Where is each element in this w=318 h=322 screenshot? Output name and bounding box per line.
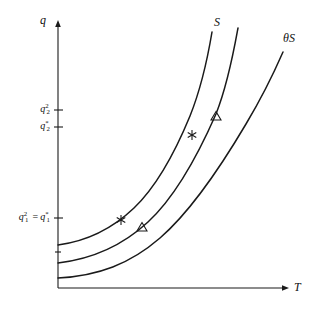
y-tick-label-q2-star: q*2 [0, 121, 52, 131]
plot-svg [0, 0, 318, 322]
q2st-sub: 2 [47, 125, 50, 132]
q1sq-sub: 1 [25, 216, 28, 223]
star-marker-upper [188, 130, 197, 140]
equals-sign: = [31, 211, 41, 222]
x-axis-arrowhead [282, 285, 289, 291]
curve-theta-s [58, 52, 283, 278]
q1sq-base: q [19, 211, 24, 222]
y-axis-label: q [40, 14, 46, 26]
q1st-sub: 1 [47, 216, 50, 223]
q2sq-sub: 2 [47, 108, 50, 115]
x-axis [58, 285, 289, 291]
curve-s [58, 28, 238, 263]
y-axis-arrowhead [55, 20, 61, 27]
figure-canvas: q T S θS q22 q*2 q21=q*1 [0, 0, 318, 322]
curve-steepest [58, 32, 212, 245]
y-tick-label-q1-equality: q21=q*1 [0, 212, 52, 222]
curve-label-s: S [214, 16, 220, 28]
curve-label-theta-s: θS [283, 32, 295, 44]
y-tick-label-q2-squared: q22 [0, 104, 52, 114]
x-axis-label: T [294, 281, 301, 293]
y-axis [55, 20, 61, 288]
